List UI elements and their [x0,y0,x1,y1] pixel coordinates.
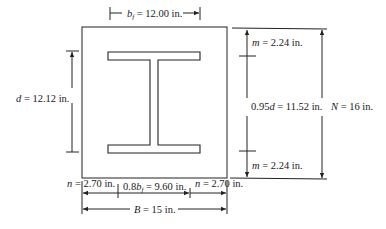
m-top-label: m = 2.24 in. [252,37,303,48]
n-right-label: n = 2.70 in. [195,178,243,189]
bottom-extension-line [230,178,327,179]
bf-dimension: bf = 12.00 in. [110,7,200,21]
base-plate-diagram: bf = 12.00 in. d = 12.12 in. m = 2.24 in… [0,0,386,229]
bf-label: bf = 12.00 in. [127,8,182,21]
m-dimension-chain: m = 2.24 in. 0.95d = 11.52 in. m = 2.24 … [239,30,322,177]
B-label: B = 15 in. [134,204,176,215]
n-left-label: n = 2.70 in. [67,178,115,189]
N-dimension: N = 16 in. [322,30,373,178]
N-label: N = 16 in. [330,101,373,112]
B-dimension: B = 15 in. [83,204,226,215]
d-dimension: d = 12.12 in. [16,51,79,152]
m-bottom-label: m = 2.24 in. [252,160,303,171]
depth95-label: 0.95d = 11.52 in. [251,101,322,112]
w-shape-section [108,52,200,153]
d-label: d = 12.12 in. [16,93,69,104]
top-extension-line [232,28,327,29]
bf80-label: 0.8bf = 9.60 in. [123,181,186,194]
